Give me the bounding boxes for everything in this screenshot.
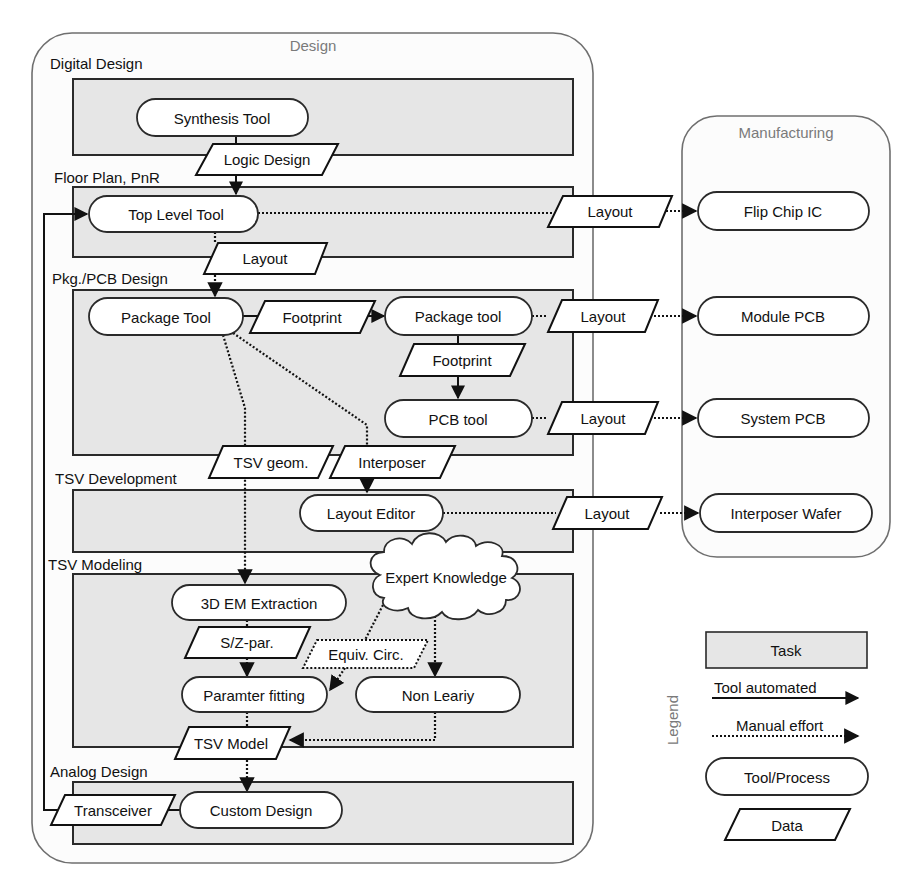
manufacturing-container: Manufacturing	[682, 116, 890, 557]
task-label-digital-design: Digital Design	[50, 55, 143, 72]
legend-task: Task	[706, 632, 867, 668]
svg-text:Package Tool: Package Tool	[121, 309, 211, 326]
tool-module-pcb[interactable]: Module PCB	[698, 297, 869, 335]
svg-text:Module PCB: Module PCB	[741, 308, 825, 325]
svg-text:TSV Model: TSV Model	[194, 735, 268, 752]
data-layout-internal[interactable]: Layout	[204, 243, 327, 274]
svg-text:Tool/Process: Tool/Process	[744, 769, 830, 786]
tool-pcb[interactable]: PCB tool	[385, 400, 532, 437]
svg-text:Layout Editor: Layout Editor	[327, 505, 415, 522]
data-footprint-1[interactable]: Footprint	[250, 301, 375, 333]
svg-text:Tool automated: Tool automated	[714, 679, 817, 696]
data-layout-toplevel[interactable]: Layout	[548, 196, 672, 227]
data-logic-design[interactable]: Logic Design	[196, 144, 338, 175]
legend-tool-process: Tool/Process	[706, 758, 868, 795]
data-tsv-geom[interactable]: TSV geom.	[209, 446, 333, 478]
tool-em-extraction[interactable]: 3D EM Extraction	[172, 585, 346, 620]
data-transceiver[interactable]: Transceiver	[51, 795, 175, 825]
legend: Legend Task Tool automated Manual effort…	[664, 632, 868, 840]
legend-title: Legend	[664, 695, 681, 745]
cloud-expert-knowledge[interactable]: Expert Knowledge	[371, 533, 520, 619]
svg-text:Footprint: Footprint	[432, 352, 492, 369]
svg-text:Custom Design: Custom Design	[210, 802, 313, 819]
task-label-tsv-development: TSV Development	[55, 470, 178, 487]
tool-package-2[interactable]: Package tool	[385, 297, 532, 335]
svg-text:Interposer Wafer: Interposer Wafer	[730, 505, 841, 522]
legend-manual-effort: Manual effort	[712, 717, 858, 736]
legend-tool-automated: Tool automated	[712, 679, 858, 698]
svg-text:Expert Knowledge: Expert Knowledge	[385, 569, 507, 586]
data-tsv-model[interactable]: TSV Model	[175, 727, 290, 759]
svg-text:3D EM Extraction: 3D EM Extraction	[201, 595, 318, 612]
design-title: Design	[290, 37, 337, 54]
tool-top-level[interactable]: Top Level Tool	[89, 196, 258, 232]
svg-text:Paramter fitting: Paramter fitting	[203, 687, 305, 704]
svg-text:Layout: Layout	[580, 410, 626, 427]
tool-system-pcb[interactable]: System PCB	[698, 399, 869, 437]
task-label-tsv-modeling: TSV Modeling	[48, 556, 142, 573]
data-interposer[interactable]: Interposer	[330, 446, 455, 478]
data-layout-interposer[interactable]: Layout	[553, 497, 662, 529]
svg-text:Non Leariy: Non Leariy	[402, 687, 475, 704]
tool-non-linearity[interactable]: Non Leariy	[356, 677, 520, 712]
tool-custom-design[interactable]: Custom Design	[180, 792, 342, 828]
svg-text:System PCB: System PCB	[740, 410, 825, 427]
svg-text:Equiv. Circ.: Equiv. Circ.	[328, 646, 404, 663]
svg-text:Layout: Layout	[242, 250, 288, 267]
svg-text:TSV geom.: TSV geom.	[233, 454, 308, 471]
svg-text:Top Level Tool: Top Level Tool	[128, 206, 224, 223]
svg-text:Footprint: Footprint	[282, 309, 342, 326]
svg-text:Logic Design: Logic Design	[224, 151, 311, 168]
svg-text:Flip Chip IC: Flip Chip IC	[744, 203, 823, 220]
svg-text:Manual effort: Manual effort	[736, 717, 824, 734]
task-label-floor-plan: Floor Plan, PnR	[54, 169, 160, 186]
svg-text:Layout: Layout	[580, 308, 626, 325]
tool-layout-editor[interactable]: Layout Editor	[300, 495, 443, 531]
tool-synthesis[interactable]: Synthesis Tool	[137, 99, 308, 136]
svg-text:Synthesis Tool: Synthesis Tool	[174, 110, 270, 127]
data-equiv-circ[interactable]: Equiv. Circ.	[303, 640, 428, 668]
tool-package-1[interactable]: Package Tool	[89, 298, 243, 335]
svg-text:PCB tool: PCB tool	[428, 411, 487, 428]
data-layout-module[interactable]: Layout	[548, 300, 658, 332]
design-flow-diagram: Design Manufacturing Digital Design Floo…	[0, 0, 918, 893]
svg-text:Interposer: Interposer	[358, 454, 426, 471]
svg-text:Data: Data	[771, 817, 803, 834]
svg-text:Package tool: Package tool	[415, 308, 502, 325]
task-label-analog-design: Analog Design	[50, 763, 148, 780]
svg-text:Transceiver: Transceiver	[74, 802, 152, 819]
manufacturing-title: Manufacturing	[738, 124, 833, 141]
data-sz-par[interactable]: S/Z-par.	[185, 627, 310, 658]
svg-text:Task: Task	[771, 642, 802, 659]
svg-text:S/Z-par.: S/Z-par.	[220, 634, 273, 651]
task-label-pkg-pcb: Pkg./PCB Design	[52, 270, 168, 287]
data-footprint-2[interactable]: Footprint	[400, 344, 525, 376]
legend-data: Data	[725, 809, 850, 840]
data-layout-system[interactable]: Layout	[548, 402, 658, 434]
svg-text:Layout: Layout	[584, 505, 630, 522]
tool-interposer-wafer[interactable]: Interposer Wafer	[700, 494, 872, 532]
tool-parameter-fitting[interactable]: Paramter fitting	[182, 677, 327, 712]
tool-flip-chip[interactable]: Flip Chip IC	[698, 192, 869, 230]
svg-text:Layout: Layout	[587, 203, 633, 220]
